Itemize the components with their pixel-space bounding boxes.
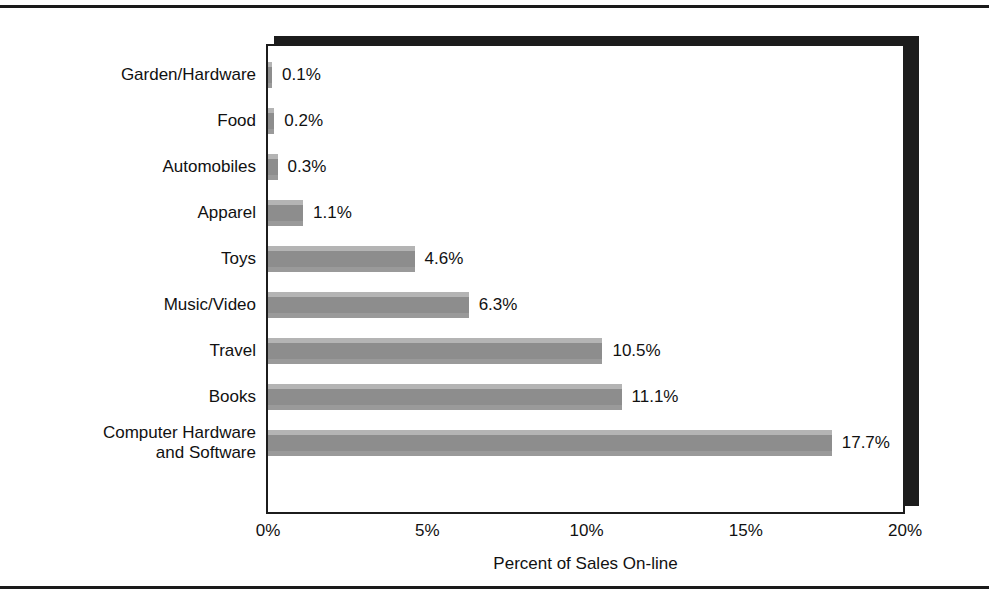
bar — [268, 338, 602, 364]
category-label: Travel — [0, 341, 256, 361]
bar-row: Toys4.6% — [0, 236, 989, 282]
bar-row: Automobiles0.3% — [0, 144, 989, 190]
category-label: Automobiles — [0, 157, 256, 177]
bar — [268, 292, 469, 318]
bar — [268, 200, 303, 226]
category-label: Books — [0, 387, 256, 407]
bar — [268, 154, 278, 180]
bar-with-value: 17.7% — [268, 430, 890, 456]
category-label: Music/Video — [0, 295, 256, 315]
x-tick-label: 15% — [706, 520, 786, 542]
bar-value-label: 17.7% — [842, 433, 890, 453]
x-axis-title: Percent of Sales On-line — [266, 554, 905, 574]
bar-row: Garden/Hardware0.1% — [0, 52, 989, 98]
page-rule-top — [0, 5, 989, 8]
bar-row: Food0.2% — [0, 98, 989, 144]
bar-value-label: 0.2% — [284, 111, 323, 131]
x-tick-label: 0% — [228, 520, 308, 542]
page-rule-bottom — [0, 586, 989, 589]
x-tick-label: 10% — [547, 520, 627, 542]
category-label: Food — [0, 111, 256, 131]
bar-with-value: 1.1% — [268, 200, 352, 226]
bar-value-label: 11.1% — [632, 387, 679, 407]
bar-with-value: 0.1% — [268, 62, 321, 88]
bar-value-label: 6.3% — [479, 295, 518, 315]
bar-with-value: 0.3% — [268, 154, 326, 180]
bar-value-label: 0.3% — [288, 157, 327, 177]
category-label: Toys — [0, 249, 256, 269]
bar — [268, 246, 415, 272]
bar-value-label: 1.1% — [313, 203, 352, 223]
bar-chart-figure: Garden/Hardware0.1%Food0.2%Automobiles0.… — [0, 20, 989, 580]
bar-with-value: 11.1% — [268, 384, 678, 410]
bar-row: Computer Hardware and Software17.7% — [0, 420, 989, 466]
x-tick-label: 20% — [865, 520, 945, 542]
bar-row: Music/Video6.3% — [0, 282, 989, 328]
category-label: Apparel — [0, 203, 256, 223]
bar — [268, 384, 622, 410]
bar-value-label: 10.5% — [612, 341, 660, 361]
x-axis-tick-labels: 0%5%10%15%20% — [0, 520, 989, 546]
bar-row: Books11.1% — [0, 374, 989, 420]
bar-row: Travel10.5% — [0, 328, 989, 374]
bar-value-label: 4.6% — [425, 249, 464, 269]
bar-with-value: 6.3% — [268, 292, 517, 318]
bar-row: Apparel1.1% — [0, 190, 989, 236]
category-label: Computer Hardware and Software — [0, 423, 256, 463]
bar-with-value: 10.5% — [268, 338, 661, 364]
bar — [268, 430, 832, 456]
category-label: Garden/Hardware — [0, 65, 256, 85]
bar — [268, 108, 274, 134]
bar-rows: Garden/Hardware0.1%Food0.2%Automobiles0.… — [0, 44, 989, 514]
x-tick-label: 5% — [387, 520, 467, 542]
bar-with-value: 0.2% — [268, 108, 323, 134]
bar-value-label: 0.1% — [282, 65, 321, 85]
bar — [268, 62, 272, 88]
bar-with-value: 4.6% — [268, 246, 463, 272]
